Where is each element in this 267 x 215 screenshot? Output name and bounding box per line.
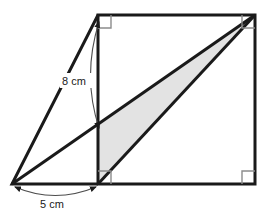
left-triangle <box>12 15 98 184</box>
right-angle-marker-top-left <box>98 15 111 28</box>
base-dimension-arc <box>15 187 96 196</box>
geometry-canvas: 8 cm 5 cm <box>0 0 267 215</box>
square-diagonal <box>98 15 255 184</box>
right-angle-marker-bottom-right <box>242 171 255 184</box>
geometry-figure: 8 cm 5 cm <box>0 0 267 215</box>
height-dimension-label: 8 cm <box>62 75 86 87</box>
base-dimension-label: 5 cm <box>40 198 64 210</box>
long-diagonal <box>12 15 255 184</box>
